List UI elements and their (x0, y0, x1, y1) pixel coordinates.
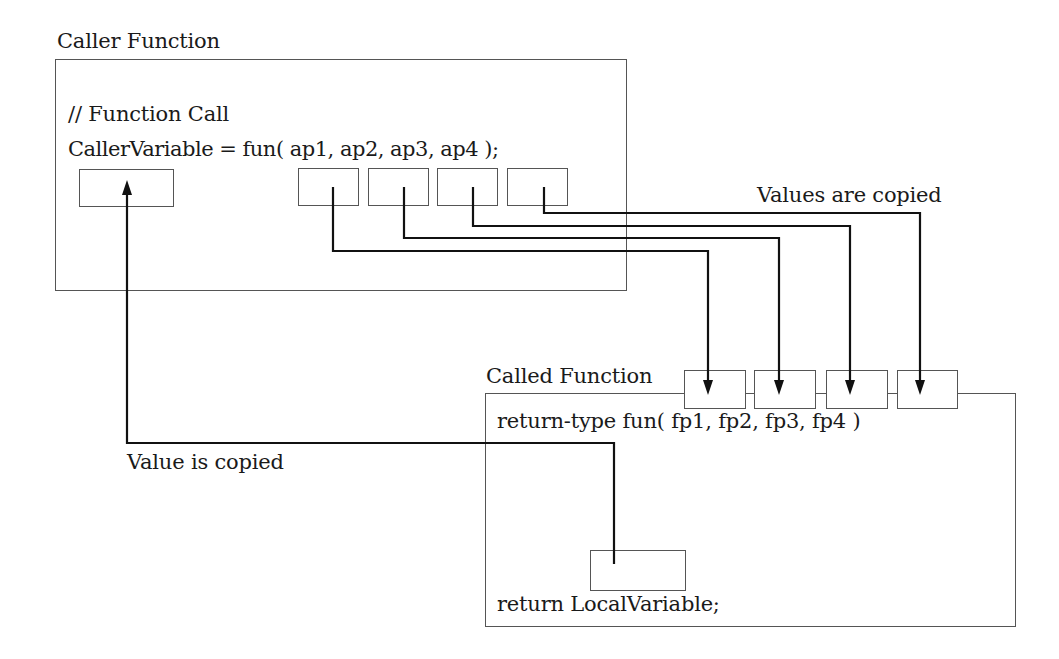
copy-arrow-ap2-fp2 (404, 187, 779, 382)
arrowhead-icon (915, 380, 925, 395)
arrowhead-icon (703, 380, 713, 395)
connector-lines (0, 0, 1059, 659)
copy-arrow-ap3-fp3 (473, 187, 850, 382)
copy-arrow-ap1-fp1 (333, 187, 708, 382)
arrowhead-icon (774, 380, 784, 395)
arrowhead-icon (845, 380, 855, 395)
return-arrow (127, 193, 614, 564)
copy-arrow-ap4-fp4 (544, 187, 920, 382)
arrowhead-up-icon (122, 180, 132, 195)
function-call-diagram: Caller Function // Function Call CallerV… (0, 0, 1059, 659)
